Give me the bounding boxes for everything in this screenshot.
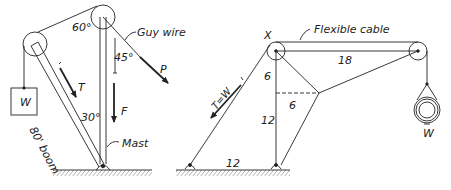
guy-wire-label: Guy wire: [137, 27, 186, 38]
angle-30-label: 30°: [81, 112, 101, 123]
ring-weight-label: W: [423, 128, 434, 139]
ground-left: [53, 170, 152, 176]
dim-6-horizontal-label: 6: [289, 100, 296, 111]
force-p-label: P: [160, 64, 167, 75]
weight-ring: [414, 83, 440, 124]
force-t-label: T: [78, 82, 85, 93]
angle-60-label: 60°: [72, 22, 92, 33]
diagram-canvas: 60° Guy wire 45° P T W 30° F 80' boom Ma…: [0, 0, 451, 190]
flexible-cable-label: Flexible cable: [314, 24, 390, 35]
dim-6-upper-label: 6: [264, 71, 271, 82]
dim-18-label: 18: [338, 55, 352, 66]
dim-12-base-label: 12: [226, 158, 240, 169]
force-f-label: F: [121, 106, 127, 117]
joint-x-label: X: [264, 30, 272, 41]
mast: [96, 17, 110, 170]
dim-12-vertical-label: 12: [261, 115, 275, 126]
angle-45-label: 45°: [114, 52, 134, 63]
weight-label: W: [20, 97, 31, 108]
ground-right: [176, 170, 290, 176]
mast-label: Mast: [122, 138, 148, 149]
